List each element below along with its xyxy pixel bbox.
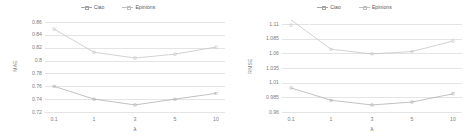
y-tick-mae-4: 0.78 (18, 71, 42, 76)
series-line-ciao-mae (54, 86, 216, 105)
legend-entry-ciao-rmse: Ciao (317, 5, 341, 10)
x-tick-rmse-4: 10 (438, 117, 468, 122)
x-tick-rmse-2: 3 (357, 117, 387, 122)
legend-label-epinions: Epinions (135, 5, 155, 10)
legend-rmse: Ciao Epinions (236, 5, 473, 10)
y-tick-mae-2: 0.82 (18, 45, 42, 50)
legend-entry-ciao: Ciao (81, 5, 105, 10)
legend-mae: Ciao Epinions (0, 5, 236, 10)
y-tick-rmse-3: 1.035 (253, 66, 279, 71)
legend-swatch-epinions-rmse (359, 5, 370, 10)
series-lines-rmse (282, 24, 462, 112)
y-tick-mae-6: 0.74 (18, 97, 42, 102)
y-tick-rmse-6: 0.96 (253, 110, 279, 115)
series-markers-epinions-rmse (290, 24, 454, 55)
y-tick-rmse-4: 1.01 (253, 80, 279, 85)
legend-label-ciao-rmse: Ciao (330, 5, 341, 10)
y-tick-mae-0: 0.86 (18, 20, 42, 25)
legend-label-ciao: Ciao (94, 5, 105, 10)
series-markers-epinions-mae (53, 28, 217, 59)
legend-label-epinions-rmse: Epinions (372, 5, 392, 10)
chart-panel-rmse: Ciao Epinions RMSE 1.11 1.085 1.06 1.035 (236, 0, 473, 140)
y-tick-rmse-5: 0.985 (253, 95, 279, 100)
x-tick-rmse-3: 5 (397, 117, 427, 122)
legend-swatch-epinions (122, 5, 133, 10)
legend-entry-epinions: Epinions (122, 5, 155, 10)
series-line-epinions-rmse (291, 20, 453, 54)
y-axis-label-rmse: RMSE (247, 58, 253, 73)
x-tick-mae-1: 1 (79, 117, 109, 122)
y-axis-label-mae: MAE (12, 60, 18, 71)
figure-two-line-charts: Ciao Epinions MAE 0.86 0.84 0.82 0 (0, 0, 473, 140)
plot-area-mae: 0.86 0.84 0.82 0.8 0.78 0.76 0.74 0.72 (45, 22, 225, 112)
legend-entry-epinions-rmse: Epinions (359, 5, 392, 10)
y-tick-mae-3: 0.8 (18, 58, 42, 63)
chart-panel-mae: Ciao Epinions MAE 0.86 0.84 0.82 0 (0, 0, 236, 140)
y-tick-mae-1: 0.84 (18, 32, 42, 37)
y-tick-mae-7: 0.72 (18, 110, 42, 115)
x-tick-rmse-0: 0.1 (276, 117, 306, 122)
legend-swatch-ciao-rmse (317, 5, 328, 10)
x-tick-rmse-1: 1 (316, 117, 346, 122)
x-axis-label-rmse: λ (282, 126, 462, 132)
y-tick-rmse-2: 1.06 (253, 51, 279, 56)
series-markers-ciao-rmse (290, 87, 454, 106)
x-tick-mae-2: 3 (120, 117, 150, 122)
y-tick-mae-5: 0.76 (18, 84, 42, 89)
plot-area-rmse: 1.11 1.085 1.06 1.035 1.01 0.985 0.96 (282, 24, 462, 112)
x-axis-label-mae: λ (45, 126, 225, 132)
y-tick-rmse-1: 1.085 (253, 36, 279, 41)
series-line-epinions-mae (54, 29, 216, 58)
x-tick-mae-0: 0.1 (39, 117, 69, 122)
series-line-ciao-rmse (291, 88, 453, 105)
y-tick-rmse-0: 1.11 (253, 22, 279, 27)
legend-swatch-ciao (81, 5, 92, 10)
series-markers-ciao-mae (53, 85, 217, 106)
x-tick-mae-3: 5 (160, 117, 190, 122)
series-lines-mae (45, 22, 225, 112)
x-tick-mae-4: 10 (201, 117, 231, 122)
